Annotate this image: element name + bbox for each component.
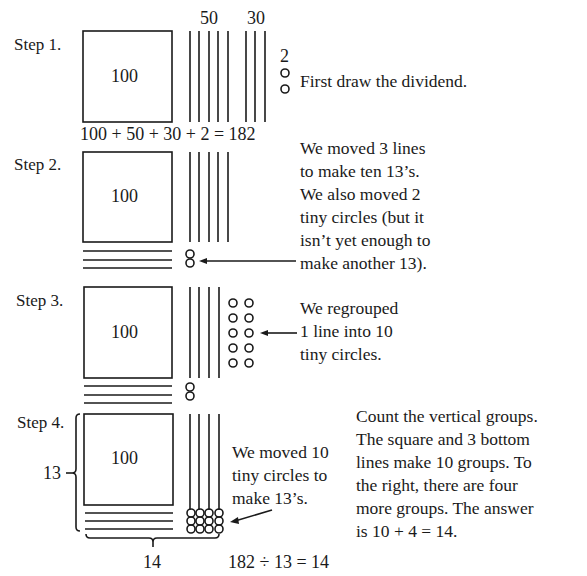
step2-bottom-lines <box>83 251 172 268</box>
step4-bottom-brace <box>86 534 219 542</box>
step4-side-note: Count the vertical groups. The square an… <box>356 405 538 543</box>
step1-note: First draw the dividend. <box>300 70 467 93</box>
step4-circle-cluster <box>187 509 223 533</box>
step1-tens-label-30: 30 <box>247 7 265 30</box>
step1-equation: 100 + 50 + 30 + 2 = 182 <box>80 123 256 146</box>
step3-arrowhead-icon <box>260 330 268 336</box>
step4-bottom-lines <box>85 513 173 529</box>
step3-regrouped-circles <box>229 299 253 367</box>
step2-ten-lines <box>190 152 228 242</box>
step1-ten-lines <box>190 31 265 122</box>
step3-note: We regrouped 1 line into 10 tiny circles… <box>300 297 398 366</box>
step4-left-brace <box>72 414 80 531</box>
step1-square-value: 100 <box>111 65 138 88</box>
step4-divisor-label: 13 <box>43 462 61 485</box>
step3-square-value: 100 <box>111 321 138 344</box>
step4-result-equation: 182 ÷ 13 = 14 <box>228 551 329 574</box>
step3-bottom-lines <box>84 386 172 403</box>
step3-unit-circles <box>186 383 194 400</box>
step2-label: Step 2. <box>14 153 61 176</box>
step4-arrowhead-icon <box>230 517 239 524</box>
step1-tens-label-50: 50 <box>200 7 218 30</box>
step1-ones-label: 2 <box>280 45 289 68</box>
step2-arrowhead-icon <box>199 258 207 264</box>
step2-unit-circles <box>186 250 194 267</box>
step4-label: Step 4. <box>17 411 64 434</box>
step3-ten-lines <box>190 287 219 378</box>
step4-ten-lines <box>190 414 219 510</box>
step2-note: We moved 3 lines to make ten 13’s. We al… <box>300 137 430 275</box>
step3-label: Step 3. <box>16 289 63 312</box>
step2-square-value: 100 <box>111 185 138 208</box>
step4-arrow-icon <box>235 510 272 521</box>
step4-square-value: 100 <box>111 447 138 470</box>
step4-note: We moved 10 tiny circles to make 13’s. <box>232 441 329 510</box>
step1-unit-circles <box>281 69 289 93</box>
step4-quotient-label: 14 <box>143 551 161 574</box>
step1-label: Step 1. <box>14 33 61 56</box>
